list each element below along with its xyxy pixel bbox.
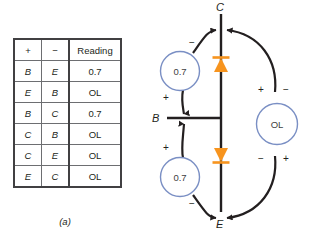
table-row: C B OL [14,124,121,145]
polarity-right-top-right: − [283,84,289,95]
cell-plus: B [14,61,42,82]
cell-minus: E [42,61,70,82]
table-row: B C 0.7 [14,103,121,124]
polarity-right-bottom-right: + [283,153,289,164]
lead-lower-left-plus [182,124,184,158]
lead-lower-left-minus [193,195,216,218]
cell-minus: B [42,82,70,103]
polarity-upper-left-plus: + [163,92,169,103]
cell-reading: 0.7 [69,61,121,82]
lead-right-top [227,30,275,92]
terminal-label-base: B [152,112,159,124]
lead-upper-left-minus [193,30,216,53]
table-header-row: + − Reading [14,39,121,61]
table-row: E B OL [14,82,121,103]
cell-plus: E [14,82,42,103]
cell-reading: OL [69,82,121,103]
cell-minus: E [42,145,70,166]
lead-right-bottom [227,156,275,218]
terminal-label-emitter: E [216,218,224,230]
header-reading: Reading [69,39,121,61]
cell-minus: C [42,103,70,124]
lead-upper-left-plus [182,90,184,114]
meter-reading-table: + − Reading B E 0.7 E B OL B C 0.7 C B [13,38,122,188]
panel-a-table-figure: + − Reading B E 0.7 E B OL B C 0.7 C B [0,0,150,248]
cell-reading: OL [69,124,121,145]
meter-right-value: OL [271,119,284,130]
cell-reading: 0.7 [69,103,121,124]
table-row: C E OL [14,145,121,166]
cell-minus: C [42,166,70,188]
diode-lower-icon [213,148,230,163]
polarity-right-top-left: + [258,84,264,95]
polarity-lower-left-minus: − [189,198,195,209]
caption-panel-a: (a) [45,216,85,227]
table-row: E C OL [14,166,121,188]
polarity-right-bottom-left: − [258,153,264,164]
meter-lower-left-value: 0.7 [173,172,186,183]
header-minus: − [42,39,70,61]
terminal-label-collector: C [216,1,224,13]
table-row: B E 0.7 [14,61,121,82]
header-plus: + [14,39,42,61]
cell-plus: B [14,103,42,124]
diode-upper-icon [213,58,230,73]
transistor-circuit-diagram: 0.7 0.7 OL − + + − + − − + C B E [150,0,310,248]
cell-plus: C [14,145,42,166]
meter-upper-left-value: 0.7 [173,66,186,77]
cell-reading: OL [69,166,121,188]
polarity-upper-left-minus: − [189,37,195,48]
panel-b-circuit-figure: 0.7 0.7 OL − + + − + − − + C B E (b) [150,0,310,248]
cell-reading: OL [69,145,121,166]
cell-plus: C [14,124,42,145]
cell-minus: B [42,124,70,145]
cell-plus: E [14,166,42,188]
polarity-lower-left-plus: + [163,142,169,153]
